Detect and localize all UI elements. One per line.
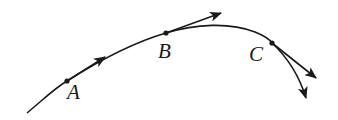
- trajectory-diagram: A B C: [0, 0, 338, 120]
- point-c-dot: [269, 40, 274, 45]
- velocity-vector-b: [166, 13, 221, 33]
- velocity-vector-a: [67, 57, 105, 81]
- velocity-vector-c: [272, 43, 316, 78]
- point-b-label: B: [158, 41, 171, 62]
- point-a-label: A: [67, 82, 80, 103]
- point-b-dot: [163, 30, 168, 35]
- point-c-label: C: [249, 44, 263, 65]
